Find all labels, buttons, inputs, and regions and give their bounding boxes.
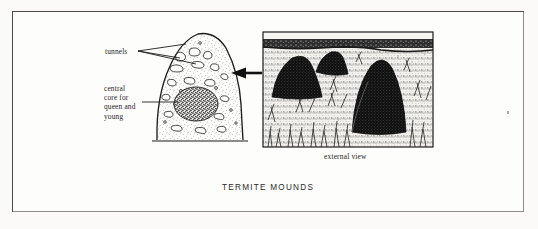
label-tunnels: tunnels: [105, 47, 127, 56]
figure-artwork: [0, 0, 538, 229]
cutaway-mound: [150, 28, 250, 144]
figure-root: tunnels central core for queen and young…: [0, 0, 538, 229]
external-view-photo: [263, 32, 433, 147]
caption-external-view: external view: [324, 152, 367, 161]
label-central-core: central core for queen and young: [104, 84, 136, 121]
page-speck: [507, 111, 509, 114]
figure-title: TERMITE MOUNDS: [222, 183, 314, 192]
